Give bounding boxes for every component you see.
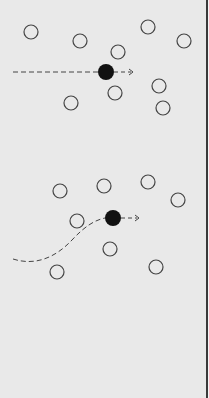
obstacle-circle xyxy=(53,184,67,198)
obstacle-circle xyxy=(171,193,185,207)
agent-dot xyxy=(105,210,121,226)
obstacle-circle xyxy=(64,96,78,110)
obstacle-circle xyxy=(70,214,84,228)
obstacle-circle xyxy=(111,45,125,59)
obstacle-circle xyxy=(152,79,166,93)
obstacle-circle xyxy=(108,86,122,100)
obstacle-circle xyxy=(50,265,64,279)
page-edge-strip xyxy=(208,0,209,398)
obstacle-circle xyxy=(149,260,163,274)
obstacle-circle xyxy=(103,242,117,256)
straight-path-panel xyxy=(13,20,191,115)
obstacle-circle xyxy=(177,34,191,48)
diagram-canvas xyxy=(0,0,209,398)
curved-trajectory-path xyxy=(13,218,105,262)
obstacle-circle xyxy=(24,25,38,39)
obstacle-circle xyxy=(141,20,155,34)
obstacle-circle xyxy=(156,101,170,115)
obstacle-circle xyxy=(141,175,155,189)
obstacle-circle xyxy=(97,179,111,193)
curved-path-panel xyxy=(13,175,185,279)
obstacle-circle xyxy=(73,34,87,48)
agent-dot xyxy=(98,64,114,80)
